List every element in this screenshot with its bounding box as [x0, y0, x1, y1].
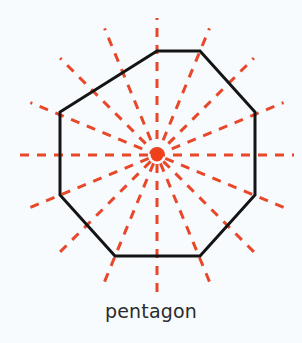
shape-figure: pentagon [0, 0, 302, 343]
shape-label: pentagon [0, 299, 302, 323]
center-dot [151, 149, 164, 162]
symmetry-diagram [0, 0, 302, 343]
